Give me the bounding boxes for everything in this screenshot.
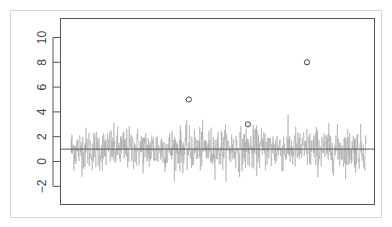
noise-line — [71, 115, 366, 182]
outlier-point — [186, 97, 191, 102]
y-tick-label: −2 — [35, 179, 49, 193]
y-tick-label: 8 — [35, 59, 49, 66]
y-tick-label: 10 — [35, 31, 49, 45]
outlier-point — [304, 60, 309, 65]
outlier-point — [245, 122, 250, 127]
y-tick-label: 6 — [35, 83, 49, 90]
plot-box — [61, 19, 375, 205]
outlier-points — [186, 60, 309, 127]
y-tick-label: 0 — [35, 158, 49, 165]
y-axis: −20246810 — [35, 31, 61, 194]
y-tick-label: 2 — [35, 133, 49, 140]
line-chart: −20246810 — [0, 0, 392, 227]
y-tick-label: 4 — [35, 108, 49, 115]
noise-series — [71, 115, 366, 182]
